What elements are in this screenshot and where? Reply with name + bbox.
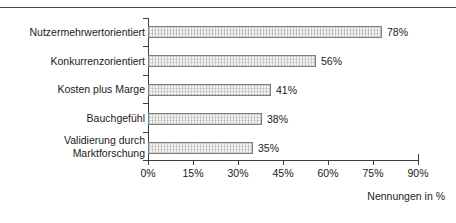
category-label-0: Nutzermehrwertorientiert — [5, 26, 145, 39]
x-tick-60 — [328, 160, 329, 165]
bar-value-3: 38% — [267, 111, 288, 127]
bar-value-1: 56% — [321, 53, 342, 69]
x-tick-label-4: 60% — [308, 167, 348, 180]
bar-validierung-durch-marktforschung — [148, 142, 253, 154]
top-divider-rule — [0, 7, 456, 8]
y-tick-3 — [143, 103, 148, 104]
x-tick-label-1: 15% — [173, 167, 213, 180]
x-tick-0 — [148, 160, 149, 165]
category-label-4: Validierung durch Marktforschung — [5, 134, 145, 159]
x-tick-label-2: 30% — [218, 167, 258, 180]
bar-bauchgefuehl — [148, 113, 262, 125]
x-tick-label-6: 90% — [398, 167, 438, 180]
category-label-1: Konkurrenzorientiert — [5, 55, 145, 68]
bar-value-4: 35% — [258, 140, 279, 156]
bar-konkurrenzorientiert — [148, 55, 316, 67]
y-tick-1 — [143, 46, 148, 47]
x-axis-title: Nennungen in % — [0, 190, 445, 203]
x-tick-label-3: 45% — [263, 167, 303, 180]
y-tick-bottom — [143, 160, 148, 161]
x-tick-label-0: 0% — [128, 167, 168, 180]
category-label-3: Bauchgefühl — [5, 112, 145, 125]
category-label-2: Kosten plus Marge — [5, 83, 145, 96]
y-tick-4 — [143, 132, 148, 133]
y-tick-top — [143, 18, 148, 19]
bar-value-0: 78% — [387, 24, 408, 40]
x-tick-90 — [418, 160, 419, 165]
bar-chart: Nutzermehrwertorientiert Konkurrenzorien… — [0, 0, 456, 223]
bar-nutzermehrwertorientiert — [148, 26, 382, 38]
x-tick-45 — [283, 160, 284, 165]
bar-kosten-plus-marge — [148, 84, 271, 96]
x-tick-label-5: 75% — [353, 167, 393, 180]
plot-area: Nutzermehrwertorientiert Konkurrenzorien… — [0, 18, 456, 160]
x-tick-15 — [193, 160, 194, 165]
x-tick-30 — [238, 160, 239, 165]
bar-value-2: 41% — [276, 82, 297, 98]
x-tick-75 — [373, 160, 374, 165]
y-tick-2 — [143, 75, 148, 76]
